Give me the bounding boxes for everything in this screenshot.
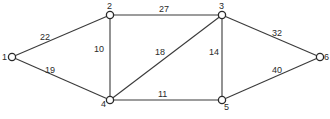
edge-weight-5-6: 40 <box>272 65 282 75</box>
edge-weight-3-4: 18 <box>155 47 165 57</box>
node-2 <box>106 11 113 18</box>
node-label-6: 6 <box>324 52 329 62</box>
edge-weight-1-2: 22 <box>40 32 50 42</box>
node-3 <box>218 11 225 18</box>
edge-weight-3-6: 32 <box>272 28 282 38</box>
node-1 <box>8 53 15 60</box>
node-label-2: 2 <box>107 1 112 11</box>
node-label-1: 1 <box>2 52 7 62</box>
node-label-4: 4 <box>101 99 106 109</box>
edge-weight-3-5: 14 <box>209 47 219 57</box>
edge-3-6 <box>222 15 320 57</box>
edge-weight-2-4: 10 <box>94 44 104 54</box>
node-6 <box>316 53 323 60</box>
node-4 <box>106 96 113 103</box>
edge-3-4 <box>110 15 222 100</box>
edge-weight-1-4: 19 <box>45 65 55 75</box>
edge-weight-4-5: 11 <box>158 89 167 99</box>
edge-5-6 <box>222 57 320 100</box>
node-label-5: 5 <box>224 102 229 112</box>
edge-1-4 <box>12 57 110 100</box>
weighted-graph: 221927101814321140 123456 <box>0 0 330 119</box>
node-label-3: 3 <box>219 1 224 11</box>
edge-weight-2-3: 27 <box>159 4 169 14</box>
